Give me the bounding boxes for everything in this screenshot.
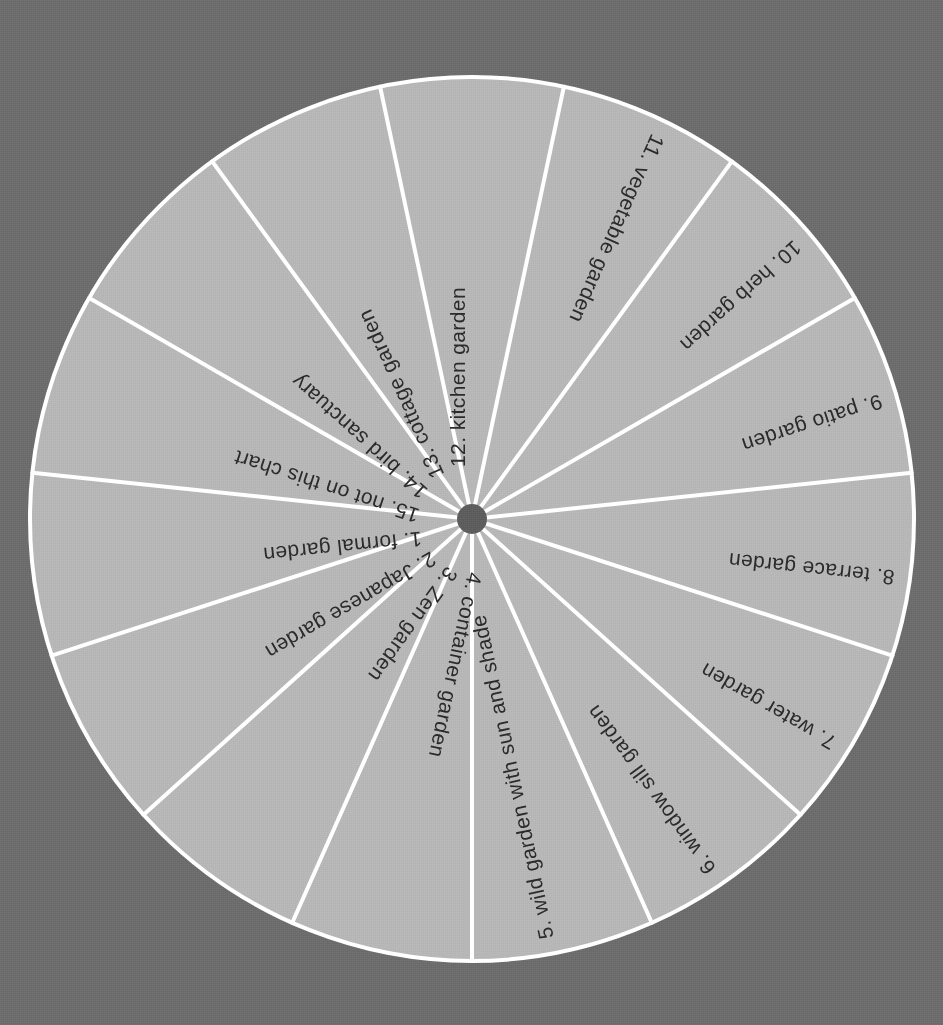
segment-label-12: 12. kitchen garden	[446, 287, 469, 467]
center-hub	[457, 504, 487, 534]
wheel-canvas: 1. formal garden2. Japanese garden3. Zen…	[0, 0, 943, 1025]
pie-wheel-chart: 1. formal garden2. Japanese garden3. Zen…	[0, 0, 943, 1025]
